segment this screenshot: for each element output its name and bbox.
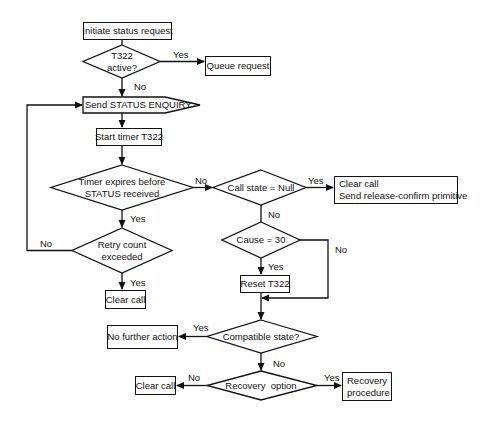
decision-label: Call state = Null	[228, 182, 295, 194]
edge-label-callstate-yes: Yes	[308, 175, 324, 186]
decision-line2: active?	[107, 62, 137, 74]
node-label: Clear call	[136, 380, 176, 392]
decision-recovery-text: Recovery option	[216, 379, 306, 393]
decision-line1: Timer expires before	[79, 176, 166, 188]
decision-call-state-text: Call state = Null	[221, 181, 301, 195]
decision-label: Compatible state?	[223, 331, 300, 343]
decision-label: Cause = 30	[237, 234, 286, 246]
node-label: Queue request	[207, 60, 270, 72]
node-label: Initiate status request	[82, 25, 172, 37]
decision-line1: Retry count	[98, 239, 147, 251]
edge-label-compatible-no: No	[273, 358, 285, 369]
node-label: No further action	[107, 331, 177, 343]
node-label: Send STATUS ENQUIRY	[85, 99, 192, 111]
decision-cause-30-text: Cause = 30	[231, 233, 291, 247]
node-clear-call-retry: Clear call	[105, 290, 146, 309]
edge-label-retry-no: No	[40, 238, 52, 249]
edge-label-cause-yes: Yes	[268, 261, 284, 272]
node-send-status-enquiry: Send STATUS ENQUIRY	[85, 97, 195, 113]
node-label-line1: Clear call	[339, 178, 379, 190]
edge-label-compatible-yes: Yes	[193, 322, 209, 333]
node-recovery-procedure: Recovery procedure	[342, 372, 392, 401]
edge-label-cause-no: No	[335, 244, 347, 255]
edge-label-callstate-no: No	[268, 209, 280, 220]
node-label-line1: Recovery	[347, 375, 387, 387]
decision-t322-active-text: T322 active?	[92, 47, 152, 77]
decision-line2: exceeded	[101, 251, 142, 263]
node-label: Clear call	[106, 294, 146, 306]
node-clear-and-release: Clear call Send release-confirm primitiv…	[334, 176, 458, 204]
node-initiate-status-request: Initiate status request	[83, 22, 172, 40]
node-start-timer: Start timer T322	[96, 128, 162, 146]
node-queue-request: Queue request	[205, 56, 271, 76]
edge-label-timer-yes: Yes	[130, 213, 146, 224]
node-no-further-action: No further action	[107, 325, 178, 349]
decision-compatible-text: Compatible state?	[216, 330, 306, 344]
decision-line1: T322	[111, 50, 133, 62]
decision-label: Recovery option	[225, 380, 296, 392]
edge-label-t322-no: No	[134, 81, 146, 92]
edge-label-retry-yes: Yes	[130, 277, 146, 288]
node-label-line2: Send release-confirm primitive	[339, 190, 467, 202]
decision-timer-expires-text: Timer expires before STATUS received	[72, 174, 172, 202]
node-reset-t322: Reset T322	[240, 275, 290, 293]
edge-label-recovery-yes: Yes	[324, 372, 340, 383]
decision-line2: STATUS received	[85, 188, 160, 200]
edge-label-t322-yes: Yes	[173, 49, 189, 60]
node-label-line2: procedure	[347, 387, 390, 399]
edge-label-recovery-no: No	[188, 372, 200, 383]
node-label: Reset T322	[241, 278, 290, 290]
decision-retry-count-text: Retry count exceeded	[87, 237, 157, 265]
edge-label-timer-no: No	[195, 175, 207, 186]
node-clear-call-recovery: Clear call	[135, 376, 176, 395]
node-label: Start timer T322	[95, 131, 163, 143]
